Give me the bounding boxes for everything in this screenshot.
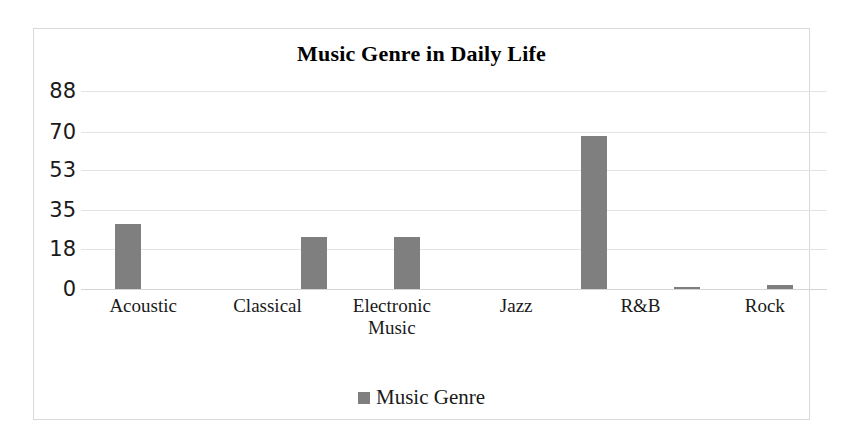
x-axis-tick-labels: AcousticClassicalElectronic MusicJazzR&B… bbox=[81, 295, 827, 357]
y-axis-tick-labels: 88705335180 bbox=[34, 91, 76, 289]
gridline bbox=[81, 132, 827, 133]
y-axis-tick-label: 53 bbox=[36, 159, 76, 180]
chart-legend: Music Genre bbox=[34, 387, 809, 408]
y-axis-tick-label: 18 bbox=[36, 238, 76, 259]
bar bbox=[581, 136, 607, 289]
chart-figure: Music Genre in Daily Life 88705335180 Ac… bbox=[33, 28, 810, 420]
axis-baseline bbox=[81, 289, 827, 290]
x-axis-tick-label: Acoustic bbox=[81, 295, 205, 317]
y-axis-tick-label: 35 bbox=[36, 200, 76, 221]
x-axis-tick-label: R&B bbox=[578, 295, 702, 317]
y-axis-tick-label: 70 bbox=[36, 121, 76, 142]
y-axis-tick-label: 88 bbox=[36, 81, 76, 102]
gridline bbox=[81, 210, 827, 211]
legend-swatch-icon bbox=[358, 392, 370, 404]
y-axis-tick-label: 0 bbox=[36, 279, 76, 300]
bar bbox=[767, 285, 793, 290]
bar bbox=[301, 237, 327, 289]
x-axis-tick-label: Classical bbox=[205, 295, 329, 317]
plot-area bbox=[81, 91, 827, 289]
legend-label: Music Genre bbox=[376, 387, 485, 408]
x-axis-tick-label: Jazz bbox=[454, 295, 578, 317]
bar bbox=[115, 224, 141, 289]
chart-title: Music Genre in Daily Life bbox=[34, 41, 809, 67]
gridline bbox=[81, 91, 827, 92]
gridline bbox=[81, 249, 827, 250]
gridline bbox=[81, 170, 827, 171]
bar bbox=[394, 237, 420, 289]
x-axis-tick-label: Electronic Music bbox=[330, 295, 454, 339]
bar bbox=[674, 287, 700, 289]
x-axis-tick-label: Rock bbox=[703, 295, 827, 317]
